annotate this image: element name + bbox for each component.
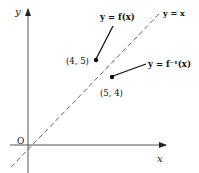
point-5-4 [110, 75, 114, 79]
f-leader-line [96, 26, 113, 59]
point-4-5 [94, 58, 98, 62]
y-axis-label: y [14, 6, 21, 17]
finv-curve-label: y = f⁻¹(x) [147, 59, 191, 69]
point-4-5-label: (4, 5) [66, 56, 89, 66]
point-5-4-label: (5, 4) [100, 88, 123, 98]
f-curve-label: y = f(x) [99, 12, 135, 22]
finv-leader-line [113, 64, 146, 76]
identity-line [11, 12, 161, 167]
inverse-function-diagram: y x O y = x y = f(x) y = f⁻¹(x) (4, 5) (… [0, 0, 199, 173]
identity-line-label: y = x [162, 8, 185, 18]
x-axis-label: x [157, 153, 163, 164]
origin-label: O [17, 136, 24, 146]
